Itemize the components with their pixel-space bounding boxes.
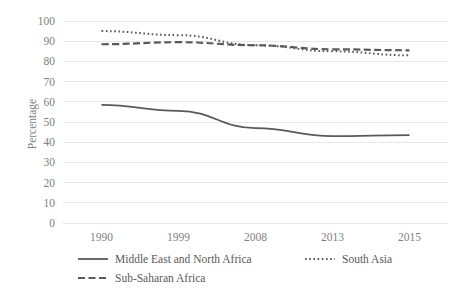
x-axis-tick-label: 1999 <box>167 231 190 243</box>
y-axis-tick-labels: 0102030405060708090100 <box>38 15 56 229</box>
y-axis-tick-label: 50 <box>44 116 56 128</box>
y-axis-tick-label: 80 <box>44 55 56 67</box>
y-axis-tick-label: 30 <box>44 156 56 168</box>
gridlines-group <box>63 21 448 223</box>
y-axis-tick-label: 0 <box>49 217 55 229</box>
chart-legend: Middle East and North AfricaSouth AsiaSu… <box>78 253 392 284</box>
series-line <box>102 42 410 50</box>
y-axis-title: Percentage <box>26 99 39 149</box>
x-axis-tick-labels: 19901999200820132015 <box>90 231 421 243</box>
x-axis-tick-label: 2015 <box>398 231 421 243</box>
x-axis-tick-label: 1990 <box>90 231 113 243</box>
y-axis-tick-label: 100 <box>38 15 56 27</box>
x-axis-tick-label: 2008 <box>244 231 267 243</box>
line-chart: 0102030405060708090100 19901999200820132… <box>0 0 461 295</box>
y-axis-tick-label: 90 <box>44 35 56 47</box>
x-axis-tick-label: 2013 <box>321 231 344 243</box>
series-line <box>102 105 410 136</box>
y-axis-tick-label: 70 <box>44 76 56 88</box>
chart-canvas: 0102030405060708090100 19901999200820132… <box>0 0 461 295</box>
legend-item-label: Middle East and North Africa <box>115 253 252 265</box>
y-axis-tick-label: 40 <box>44 136 56 148</box>
y-axis-tick-label: 10 <box>44 197 56 209</box>
y-axis-tick-label: 60 <box>44 96 56 108</box>
legend-item-label: Sub-Saharan Africa <box>115 272 205 284</box>
series-group <box>102 31 410 136</box>
y-axis-tick-label: 20 <box>44 177 56 189</box>
legend-item-label: South Asia <box>342 253 392 265</box>
